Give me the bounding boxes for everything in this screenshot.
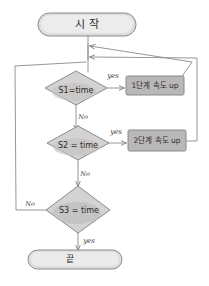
start-label: 시 작 xyxy=(75,18,99,31)
node-end[interactable]: 끝 xyxy=(28,250,122,269)
node-start[interactable]: 시 작 xyxy=(38,13,136,36)
decision-s1-label: S1=time xyxy=(59,86,94,95)
node-decision-s3[interactable]: S3 = time xyxy=(46,186,110,233)
process-2-label: 2단계 속도 up xyxy=(133,135,180,145)
node-process-1[interactable]: 1단계 속도 up xyxy=(126,76,184,95)
node-process-2[interactable]: 2단계 속도 up xyxy=(128,130,186,151)
edge-label-yes-2: yes xyxy=(109,128,122,136)
node-decision-s1[interactable]: S1=time xyxy=(45,71,107,105)
edge-label-yes-3: yes xyxy=(82,237,95,245)
decision-s3-label: S3 = time xyxy=(59,206,99,215)
end-label: 끝 xyxy=(66,254,74,264)
edge-p2-return xyxy=(90,57,197,141)
edge-label-no-1: No xyxy=(77,113,88,121)
edge-label-no-2: No xyxy=(79,170,90,178)
flowchart-canvas: 시 작 S1=time 1단계 속도 up S2 = time 2단계 속도 u… xyxy=(0,0,209,286)
node-decision-s2[interactable]: S2 = time xyxy=(47,126,109,160)
flowchart-svg: 시 작 S1=time 1단계 속도 up S2 = time 2단계 속도 u… xyxy=(0,0,209,286)
edge-label-yes-1: yes xyxy=(106,72,119,80)
decision-s2-label: S2 = time xyxy=(58,141,98,150)
edge-label-no-3: No xyxy=(24,200,35,208)
end-highlight xyxy=(31,252,119,266)
process-1-label: 1단계 속도 up xyxy=(131,80,178,90)
